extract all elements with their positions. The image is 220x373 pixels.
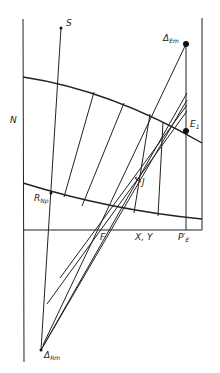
- label-n-axis: N: [10, 116, 17, 125]
- operating-line: [60, 105, 187, 278]
- point-r-np: [50, 192, 53, 195]
- operating-line: [41, 93, 187, 350]
- label-p-e: P′E: [178, 233, 189, 243]
- diagram-canvas: [0, 0, 220, 373]
- extract-curve: [23, 77, 202, 143]
- operating-line: [47, 111, 187, 304]
- tie-line: [64, 92, 94, 197]
- tie-line: [134, 114, 150, 213]
- point-delta-em: [183, 41, 189, 47]
- point-e1: [183, 128, 189, 134]
- label-delta-em: ΔEm: [163, 34, 179, 44]
- label-f: F: [100, 233, 105, 242]
- label-delta-rm: ΔRm: [44, 351, 60, 361]
- j-arrowhead: [135, 177, 137, 180]
- label-s: S: [66, 19, 72, 28]
- label-e1: E1: [190, 120, 200, 130]
- tie-line: [82, 103, 124, 206]
- label-r-np: RNp: [34, 194, 49, 204]
- left-axis: [23, 19, 24, 362]
- point-delta-rm: [40, 349, 43, 352]
- operating-line: [41, 100, 187, 350]
- label-x-axis: X, Y: [135, 233, 152, 242]
- label-j: J: [142, 178, 145, 187]
- point-s: [60, 27, 63, 30]
